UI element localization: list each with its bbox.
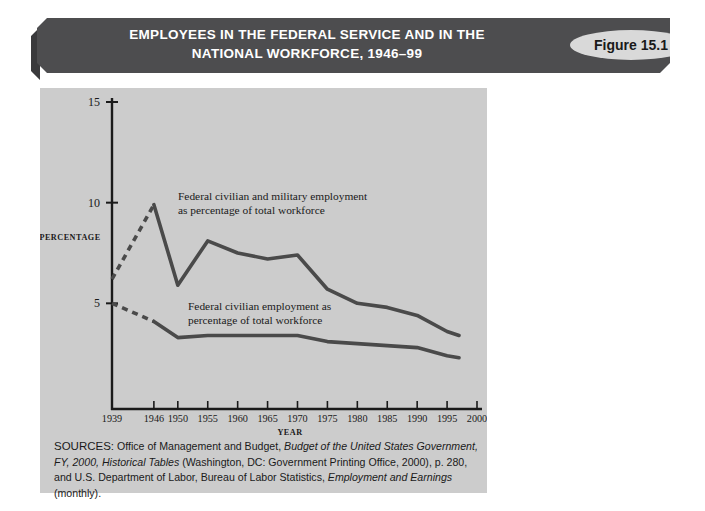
banner-face: EMPLOYEES IN THE FEDERAL SERVICE AND IN … bbox=[37, 18, 670, 73]
line-chart: 51015 1939194619501955196019651970197519… bbox=[40, 88, 487, 438]
x-tick-label: 1995 bbox=[437, 413, 457, 424]
title-line-1: EMPLOYEES IN THE FEDERAL SERVICE AND IN … bbox=[77, 25, 537, 44]
x-tick-label: 1985 bbox=[377, 413, 397, 424]
x-tick-label: 1946 bbox=[144, 413, 164, 424]
sources-label: SOURCES: bbox=[54, 440, 114, 452]
y-axis-label: PERCENTAGE bbox=[40, 233, 101, 242]
sources-note: SOURCES: Office of Management and Budget… bbox=[54, 439, 478, 501]
x-tick-label: 1970 bbox=[287, 413, 307, 424]
x-tick-label: 1975 bbox=[317, 413, 337, 424]
sources-italic-2: Historical Tables bbox=[102, 456, 179, 468]
data-series-group bbox=[112, 205, 459, 358]
sources-text-1: Office of Management and Budget, bbox=[114, 440, 284, 452]
x-axis-tick-labels: 1939194619501955196019651970197519801985… bbox=[102, 413, 487, 424]
x-tick-label: 1965 bbox=[257, 413, 277, 424]
title-line-2: NATIONAL WORKFORCE, 1946–99 bbox=[77, 44, 537, 63]
series-line-2 bbox=[154, 322, 459, 358]
page-title: EMPLOYEES IN THE FEDERAL SERVICE AND IN … bbox=[77, 25, 537, 63]
sources-italic-3: Employment and Earnings bbox=[328, 471, 452, 483]
x-axis-label: YEAR bbox=[277, 428, 302, 437]
series-annotation-2: percentage of total workforce bbox=[188, 314, 322, 326]
x-tick-label: 1960 bbox=[227, 413, 247, 424]
y-tick-label: 15 bbox=[88, 95, 100, 109]
x-tick-label: 1955 bbox=[198, 413, 218, 424]
chart-panel: 51015 1939194619501955196019651970197519… bbox=[40, 88, 487, 493]
y-tick-label: 5 bbox=[94, 296, 100, 310]
x-tick-label: 1939 bbox=[102, 413, 122, 424]
y-tick-label: 10 bbox=[88, 196, 100, 210]
sources-text-3: (monthly). bbox=[54, 487, 101, 499]
series-annotation-2: Federal civilian employment as bbox=[188, 300, 332, 312]
x-tick-label: 1980 bbox=[347, 413, 367, 424]
series-annotation-1: Federal civilian and military employment bbox=[178, 190, 368, 202]
x-tick-label: 2000 bbox=[467, 413, 487, 424]
x-tick-label: 1950 bbox=[168, 413, 188, 424]
x-tick-label: 1990 bbox=[407, 413, 427, 424]
series-dashed-2 bbox=[112, 303, 154, 321]
y-axis-tick-labels: 51015 bbox=[88, 95, 100, 310]
figure-number-badge: Figure 15.1 bbox=[570, 30, 692, 60]
series-dashed-1 bbox=[112, 205, 154, 280]
series-annotation-1: as percentage of total workforce bbox=[178, 204, 325, 216]
title-banner: EMPLOYEES IN THE FEDERAL SERVICE AND IN … bbox=[31, 18, 676, 80]
